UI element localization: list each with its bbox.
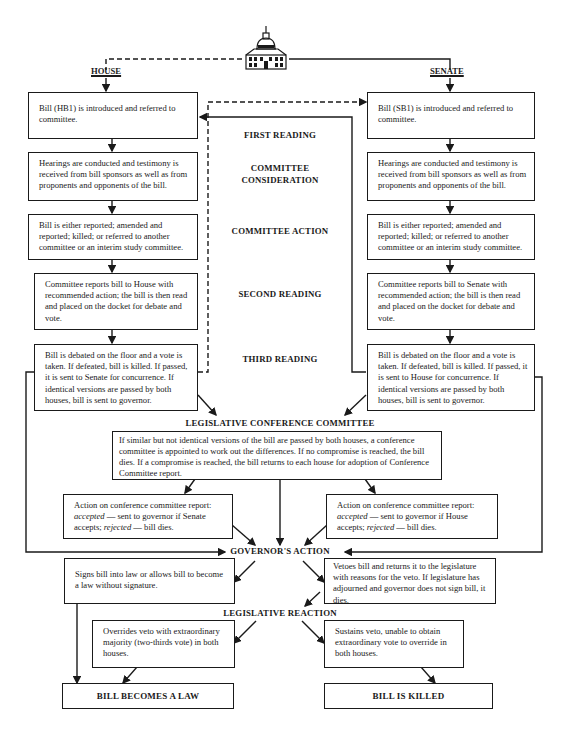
legislative-reaction-label: LEGISLATIVE REACTION bbox=[215, 608, 345, 618]
senate-committee-action-box: Bill is either reported; amended and rep… bbox=[367, 214, 535, 260]
senate-debate-box: Bill is debated on the floor and a vote … bbox=[367, 344, 535, 411]
capitol-building-icon bbox=[244, 25, 288, 70]
house-header: HOUSE bbox=[91, 66, 121, 76]
senate-report-box: Committee reports bill to Senate with re… bbox=[367, 273, 535, 330]
senate-introduce-box: Bill (SB1) is introduced and referred to… bbox=[367, 92, 535, 139]
bill-is-killed-box: BILL IS KILLED bbox=[324, 683, 493, 709]
house-debate-box: Bill is debated on the floor and a vote … bbox=[34, 344, 198, 411]
committee-consideration-label-2: CONSIDERATION bbox=[235, 175, 325, 185]
senate-hearings-box: Hearings are conducted and testimony is … bbox=[367, 152, 535, 201]
sustain-veto-box: Sustains veto, unable to obtain extraord… bbox=[324, 620, 464, 668]
house-hearings-box: Hearings are conducted and testimony is … bbox=[28, 152, 198, 201]
conference-committee-label: LEGISLATIVE CONFERENCE COMMITTEE bbox=[160, 418, 400, 428]
governor-vetoes-box: Vetoes bill and returns it to the legisl… bbox=[324, 558, 496, 604]
senate-header: SENATE bbox=[430, 66, 464, 76]
bill-becomes-law-box: BILL BECOMES A LAW bbox=[62, 683, 234, 709]
first-reading-label: FIRST READING bbox=[235, 130, 325, 140]
second-reading-label: SECOND READING bbox=[230, 289, 330, 299]
governor-signs-box: Signs bill into law or allows bill to be… bbox=[64, 558, 235, 604]
house-introduce-box: Bill (HB1) is introduced and referred to… bbox=[28, 92, 198, 139]
committee-consideration-label-1: COMMITTEE bbox=[235, 163, 325, 173]
house-report-box: Committee reports bill to House with rec… bbox=[34, 273, 198, 330]
conference-action-senate-box: Action on conference committee report: a… bbox=[63, 494, 233, 539]
third-reading-label: THIRD READING bbox=[235, 354, 325, 364]
override-veto-box: Overrides veto with extraordinary majori… bbox=[92, 620, 235, 668]
governors-action-label: GOVERNOR'S ACTION bbox=[225, 546, 335, 556]
committee-action-label: COMMITTEE ACTION bbox=[225, 226, 335, 236]
conference-action-house-box: Action on conference committee report: a… bbox=[326, 494, 498, 539]
house-committee-action-box: Bill is either reported; amended and rep… bbox=[28, 214, 198, 260]
conference-committee-box: If similar but not identical versions of… bbox=[112, 431, 442, 480]
